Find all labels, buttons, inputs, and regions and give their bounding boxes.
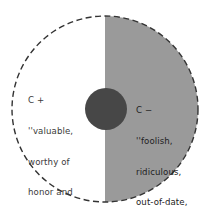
center-disc	[85, 88, 127, 130]
c-minus-label: C − ''foolish, ridiculous, out-of-date, …	[136, 85, 201, 216]
c-minus-line-2: ridiculous,	[136, 167, 201, 177]
c-plus-line-2: worthy of	[28, 157, 79, 167]
c-plus-label: C + ''valuable, worthy of honor and admi…	[28, 75, 79, 216]
c-minus-symbol: C −	[136, 105, 201, 115]
c-minus-line-3: out-of-date,	[136, 197, 201, 207]
c-plus-line-3: honor and	[28, 187, 79, 197]
c-minus-line-1: ''foolish,	[136, 136, 201, 146]
c-plus-symbol: C +	[28, 95, 79, 105]
c-plus-line-1: ''valuable,	[28, 126, 79, 136]
